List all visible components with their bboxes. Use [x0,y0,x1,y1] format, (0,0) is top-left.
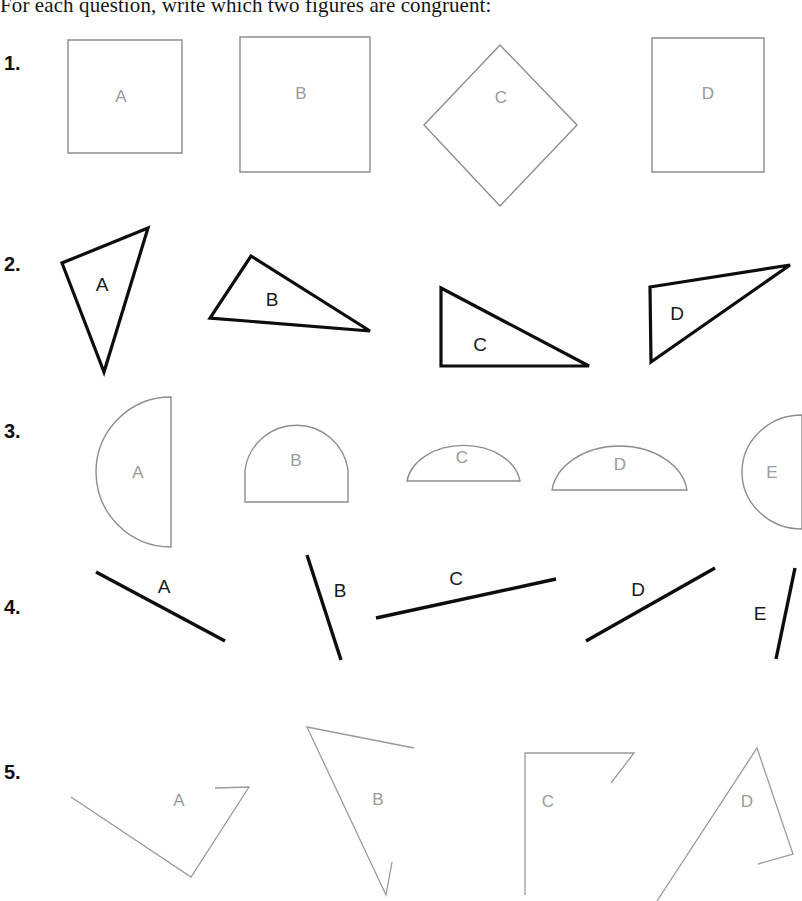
figure-4e-segment [776,568,795,659]
figure-1a-label: A [115,87,127,106]
figure-3d-label: D [614,455,626,474]
figure-1b-label: B [295,84,306,103]
question-3-figures: A B C D E [96,397,802,547]
figure-5c-polyline [525,753,634,895]
figure-5d-label: D [741,792,753,811]
figure-4c-segment [376,579,556,618]
figure-5b-label: B [372,790,383,809]
question-2-figures: A B C D [62,228,790,372]
question-5-figures: A B C D [71,727,793,901]
figure-1b-square [240,37,370,172]
figure-3e-label: E [766,463,777,482]
figure-2c-triangle [441,288,589,366]
figure-2c-label: C [473,334,487,355]
figure-1d-square [652,38,764,172]
figure-5a-label: A [173,791,185,810]
figure-2a-label: A [96,274,109,295]
figure-1c-label: C [495,88,507,107]
question-4-figures: A B C D E [96,555,795,660]
figure-3b-label: B [290,451,301,470]
figure-5a-polyline [71,787,249,877]
figure-5d-polyline [657,748,793,901]
figure-2b-label: B [266,289,279,310]
figure-2d-label: D [670,303,684,324]
figure-3a-label: A [132,463,144,482]
figure-5b-polyline [307,727,414,895]
figure-4b-segment [307,555,341,660]
figure-2a-triangle [62,228,148,372]
figure-4c-label: C [449,568,463,589]
figure-4d-segment [586,568,715,641]
figure-2b-triangle [210,256,370,331]
figures-layer: A B C D A B C D A B C [0,0,802,901]
figure-4b-label: B [334,580,347,601]
figure-4d-label: D [631,579,645,600]
figure-4e-label: E [754,603,767,624]
figure-1d-label: D [702,84,714,103]
worksheet-page: For each question, write which two figur… [0,0,802,901]
figure-1c-diamond [424,45,577,206]
question-1-figures: A B C D [68,37,764,206]
figure-3c-label: C [456,448,468,467]
figure-4a-label: A [158,576,171,597]
figure-5c-label: C [542,792,554,811]
